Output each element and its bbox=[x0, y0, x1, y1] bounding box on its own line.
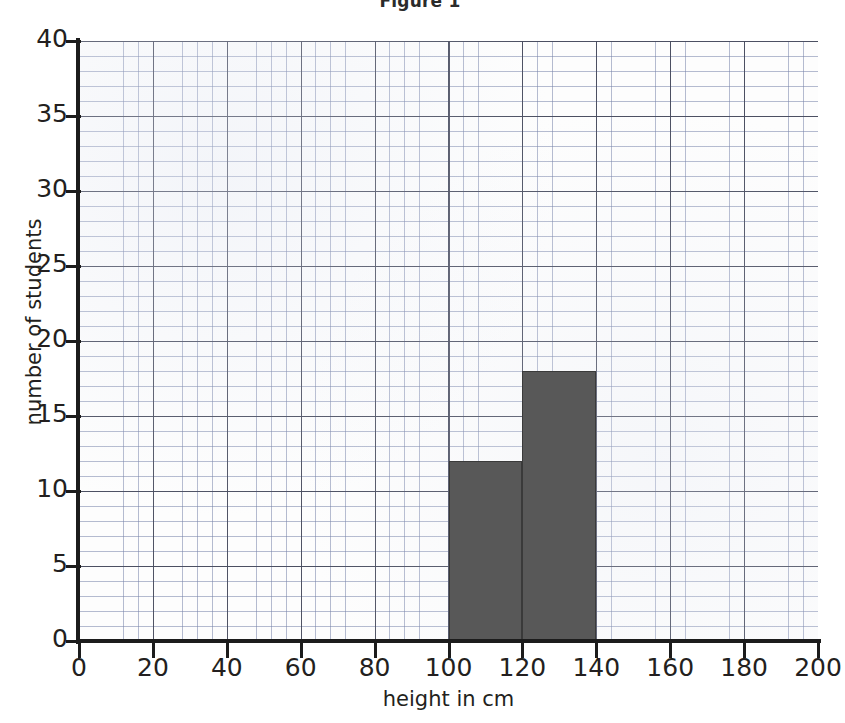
plot-area bbox=[79, 41, 818, 641]
y-tick bbox=[66, 190, 81, 193]
x-axis-title: height in cm bbox=[79, 687, 818, 711]
y-tick bbox=[66, 115, 81, 118]
x-tick-label: 40 bbox=[187, 653, 267, 682]
y-tick-label: 5 bbox=[8, 549, 68, 578]
y-tick bbox=[66, 565, 81, 568]
y-tick-label: 35 bbox=[8, 99, 68, 128]
y-tick-label: 40 bbox=[8, 24, 68, 53]
y-axis-title: number of students bbox=[22, 187, 46, 457]
x-tick-label: 100 bbox=[409, 653, 489, 682]
bar bbox=[522, 371, 596, 641]
y-tick bbox=[66, 340, 81, 343]
x-tick-label: 20 bbox=[113, 653, 193, 682]
y-tick bbox=[66, 490, 81, 493]
y-tick-label: 0 bbox=[8, 624, 68, 653]
bar bbox=[449, 461, 523, 641]
y-tick-label: 10 bbox=[8, 474, 68, 503]
y-tick bbox=[66, 415, 81, 418]
figure-title: Figure 1 bbox=[0, 0, 840, 11]
x-tick-label: 140 bbox=[556, 653, 636, 682]
x-tick-label: 60 bbox=[261, 653, 341, 682]
y-tick bbox=[66, 40, 81, 43]
x-tick-label: 80 bbox=[335, 653, 415, 682]
x-tick-label: 180 bbox=[704, 653, 784, 682]
y-tick bbox=[66, 265, 81, 268]
x-tick-label: 160 bbox=[630, 653, 710, 682]
x-tick-label: 120 bbox=[482, 653, 562, 682]
y-tick bbox=[66, 640, 81, 643]
x-tick-label: 200 bbox=[778, 653, 845, 682]
